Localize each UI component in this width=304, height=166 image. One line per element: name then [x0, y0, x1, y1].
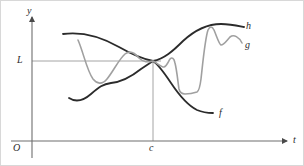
limit-value-label: L: [17, 55, 23, 65]
curve-g: [78, 27, 242, 94]
y-axis-label: y: [27, 6, 31, 16]
curve-f: [69, 61, 213, 113]
curve-label-g: g: [245, 40, 250, 50]
origin-label: O: [13, 143, 20, 153]
curve-label-h: h: [246, 21, 251, 31]
squeeze-theorem-figure: y t O L c f g h: [0, 0, 304, 166]
limit-point-label: c: [149, 143, 153, 153]
curve-h: [63, 24, 244, 61]
curve-label-f: f: [219, 108, 222, 118]
x-axis-label: t: [293, 135, 296, 145]
